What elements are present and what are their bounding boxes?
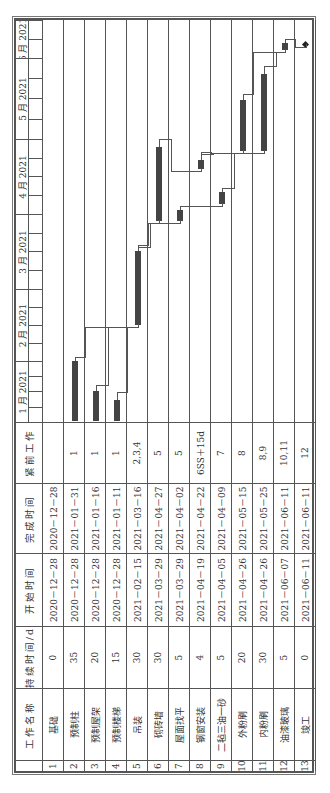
week-tick	[29, 214, 43, 233]
cell-pred: 2,3,4	[127, 422, 148, 483]
week-tick	[29, 177, 43, 196]
gantt-table: 工作名称持续时间/d开始时间完成时间紧前工作1基础02020－12－282020…	[14, 18, 314, 773]
dependency-link	[138, 247, 152, 248]
cell-name: 油漆玻璃	[274, 688, 295, 760]
cell-finish: 2020－12－28	[43, 483, 64, 553]
cell-start: 2021－04－26	[253, 553, 274, 626]
dependency-link	[85, 327, 86, 358]
gantt-bar	[72, 361, 78, 421]
week-tick	[29, 195, 43, 214]
cell-duration: 30	[253, 626, 274, 688]
cell-index: 6	[148, 760, 169, 771]
gantt-bar	[114, 400, 120, 421]
dependency-link	[190, 206, 223, 207]
row-divider	[147, 20, 148, 422]
dependency-link	[96, 385, 110, 386]
cell-index: 13	[295, 760, 316, 771]
week-tick	[29, 307, 43, 325]
gantt-bar	[156, 147, 162, 221]
header-index	[16, 760, 43, 771]
week-tick	[29, 361, 43, 376]
cell-duration: 0	[43, 626, 64, 688]
cell-duration: 20	[85, 626, 106, 688]
week-tick	[29, 99, 43, 119]
cell-pred: 1	[85, 422, 106, 483]
dependency-link	[171, 139, 172, 172]
cell-index: 12	[274, 760, 295, 771]
dependency-link	[234, 154, 235, 190]
cell-finish: 2021－03－16	[127, 483, 148, 553]
cell-name: 竣工	[295, 688, 316, 760]
dependency-link	[138, 324, 139, 328]
week-tick	[29, 139, 43, 158]
cell-pred: 5	[148, 422, 169, 483]
rotated-gantt-table: 工作名称持续时间/d开始时间完成时间紧前工作1基础02020－12－282020…	[14, 18, 314, 773]
cell-start: 2021－06－11	[295, 553, 316, 626]
cell-index: 3	[85, 760, 106, 771]
week-tick	[29, 252, 43, 271]
cell-name: 吊装	[127, 688, 148, 760]
header-finish: 完成时间	[16, 483, 43, 553]
row-divider	[273, 20, 274, 422]
month-header: 4 月 2021	[16, 139, 29, 214]
dependency-link	[148, 223, 181, 224]
week-tick	[29, 58, 43, 78]
cell-start: 2021－06－07	[274, 553, 295, 626]
cell-finish: 2021－01－11	[106, 483, 127, 553]
cell-start: 2020－12－28	[43, 553, 64, 626]
week-tick	[29, 343, 43, 361]
cell-finish: 2021－04－02	[169, 483, 190, 553]
dependency-link	[264, 151, 265, 155]
gantt-bar	[135, 251, 141, 325]
cell-finish: 2021－05－25	[253, 483, 274, 553]
cell-name: 基础	[43, 688, 64, 760]
week-tick	[29, 233, 43, 252]
cell-index: 2	[64, 760, 85, 771]
cell-pred: 8,9	[253, 422, 274, 483]
dependency-link	[234, 154, 265, 155]
dependency-link	[276, 52, 277, 67]
month-header: 1 月 2021	[16, 361, 29, 422]
dependency-link	[171, 171, 202, 172]
cell-name: 内粉刷	[253, 688, 274, 760]
dependency-link	[148, 223, 149, 245]
month-header: 3 月 2021	[16, 214, 29, 289]
cell-start: 2021－04－26	[232, 553, 253, 626]
cell-duration: 4	[190, 626, 211, 688]
cell-name: 预制楼梯	[106, 688, 127, 760]
week-tick	[29, 20, 43, 39]
cell-start: 2021－04－05	[211, 553, 232, 626]
cell-start: 2021－04－19	[190, 553, 211, 626]
cell-start: 2021－03－29	[148, 553, 169, 626]
week-tick	[29, 376, 43, 391]
gantt-bar	[93, 391, 99, 421]
week-tick	[29, 270, 43, 289]
cell-index: 11	[253, 760, 274, 771]
header-name: 工作名称	[16, 688, 43, 760]
dependency-link	[117, 392, 118, 400]
dependency-link	[201, 168, 202, 172]
month-header: 5 月 2021	[16, 58, 29, 139]
dependency-link	[127, 327, 128, 393]
header-duration: 持续时间/d	[16, 626, 43, 688]
dependency-link	[222, 188, 236, 189]
dependency-link	[159, 139, 173, 140]
week-tick	[29, 325, 43, 343]
month-header: 2 月 2021	[16, 289, 29, 361]
cell-start: 2021－03－29	[169, 553, 190, 626]
gantt-bar	[261, 74, 267, 151]
cell-duration: 30	[127, 626, 148, 688]
cell-pred: 6SS＋15d	[190, 422, 211, 483]
dependency-link	[222, 203, 223, 207]
cell-finish: 2021－06－11	[295, 483, 316, 553]
cell-pred: 1	[106, 422, 127, 483]
cell-name: 二毡三油一砂	[211, 688, 232, 760]
cell-pred: 10,11	[274, 422, 295, 483]
dependency-link	[264, 66, 278, 67]
cell-finish: 2021－04－22	[190, 483, 211, 553]
cell-duration: 30	[148, 626, 169, 688]
cell-pred: 1	[64, 422, 85, 483]
cell-duration: 5	[274, 626, 295, 688]
row-divider	[210, 20, 211, 422]
cell-index: 4	[106, 760, 127, 771]
